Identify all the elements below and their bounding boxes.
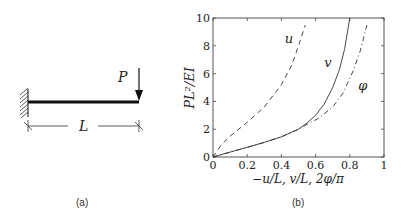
- curve-label: φ: [358, 78, 368, 93]
- x-tick-label: 0.2: [238, 159, 256, 172]
- x-tick-label: 0.6: [307, 159, 325, 172]
- load-label: P: [117, 69, 128, 85]
- x-tick-label: 0: [210, 159, 217, 172]
- x-tick-label: 0.8: [341, 159, 359, 172]
- load-arrow-icon: [135, 68, 143, 101]
- curve-label: u: [285, 31, 293, 46]
- y-tick-label: 4: [203, 95, 210, 108]
- caption-a: (a): [76, 197, 88, 208]
- x-axis-label: −u/L, v/L, 2φ/π: [252, 172, 345, 186]
- x-tick-label: 1: [381, 159, 388, 172]
- y-tick-label: 6: [203, 68, 210, 81]
- y-tick-label: 0: [203, 151, 210, 164]
- load-deflection-chart: 00.20.40.60.810246810 uvφ PL²/EI −u/L, v…: [182, 12, 388, 208]
- cantilever-diagram: P L (a): [20, 68, 143, 208]
- x-tick-label: 0.4: [273, 159, 291, 172]
- y-tick-label: 8: [203, 40, 210, 53]
- length-label: L: [78, 118, 88, 134]
- figure-canvas: P L (a) 00.20.40.60.810246810 uvφ PL²/EI…: [0, 0, 405, 218]
- curve-label: v: [324, 55, 332, 70]
- curve-v: [213, 18, 350, 157]
- y-tick-label: 10: [196, 12, 210, 25]
- fixed-wall-icon: [20, 88, 28, 118]
- y-tick-label: 2: [203, 123, 210, 136]
- y-axis-label: PL²/EI: [182, 66, 197, 109]
- caption-b: (b): [292, 197, 304, 208]
